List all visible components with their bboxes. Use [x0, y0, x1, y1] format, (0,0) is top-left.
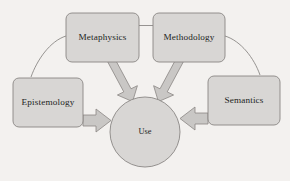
use-label: Use — [138, 127, 151, 136]
arrow-semantics-to-use — [180, 107, 208, 130]
epistemology-label: Epistemology — [22, 97, 75, 107]
concept-diagram: Use Metaphysics Methodology Epistemology… — [0, 0, 290, 181]
arrow-methodology-to-use — [154, 56, 188, 102]
methodology-label: Methodology — [163, 32, 214, 42]
diagram-canvas: Use Metaphysics Methodology Epistemology… — [0, 0, 290, 181]
arrow-epistemology-to-use — [83, 109, 111, 132]
node-epistemology[interactable]: Epistemology — [13, 78, 83, 127]
node-semantics[interactable]: Semantics — [208, 76, 280, 125]
arrow-metaphysics-to-use — [104, 56, 138, 102]
metaphysics-label: Metaphysics — [78, 32, 126, 42]
node-use[interactable]: Use — [110, 97, 180, 167]
connector-methodology-semantics — [225, 36, 260, 75]
node-metaphysics[interactable]: Metaphysics — [66, 13, 139, 62]
connector-metaphysics-epistemology — [31, 36, 66, 77]
node-methodology[interactable]: Methodology — [153, 13, 225, 62]
semantics-label: Semantics — [224, 95, 263, 105]
